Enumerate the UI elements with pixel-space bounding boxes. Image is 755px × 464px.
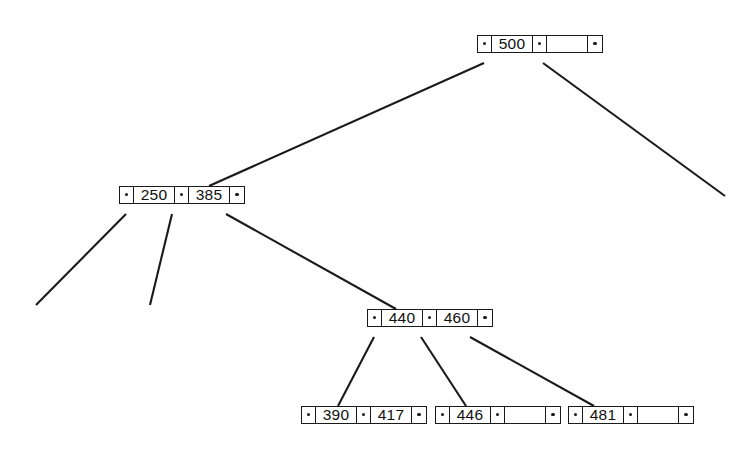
leaf-node-481-key-1: 481 xyxy=(583,407,624,423)
root-node-key-1: 500 xyxy=(492,36,533,52)
pointer-dot-icon xyxy=(125,193,128,196)
edge-layer xyxy=(0,0,755,464)
edge-250-385-middle-dangling xyxy=(150,214,172,305)
leaf-node-446-pointer-0 xyxy=(436,407,450,423)
internal-node-440-460-key-1: 440 xyxy=(382,310,423,326)
leaf-node-481-pointer-2 xyxy=(624,407,638,423)
leaf-node-446-pointer-2 xyxy=(491,407,505,423)
pointer-dot-icon xyxy=(496,413,499,416)
edge-440-460-to-390-417 xyxy=(338,337,374,406)
internal-node-250-385: 250385 xyxy=(119,186,245,204)
edge-250-385-left-dangling xyxy=(36,214,126,305)
leaf-node-390-417-pointer-2 xyxy=(357,407,371,423)
btree-diagram: 500250385440460390417446481 xyxy=(0,0,755,464)
internal-node-440-460-pointer-2 xyxy=(423,310,437,326)
edge-440-460-to-446 xyxy=(421,337,466,406)
edge-root-to-250-385 xyxy=(209,63,484,186)
pointer-dot-icon xyxy=(629,413,632,416)
internal-node-250-385-key-1: 250 xyxy=(134,187,175,203)
root-node-pointer-0 xyxy=(478,36,492,52)
internal-node-250-385-pointer-2 xyxy=(175,187,189,203)
pointer-dot-icon xyxy=(483,316,486,319)
root-node: 500 xyxy=(477,35,603,53)
pointer-dot-icon xyxy=(593,42,596,45)
leaf-node-446-key-1: 446 xyxy=(450,407,491,423)
pointer-dot-icon xyxy=(441,413,444,416)
leaf-node-446: 446 xyxy=(435,406,561,424)
leaf-node-446-key-3 xyxy=(505,407,546,423)
leaf-node-481-pointer-0 xyxy=(569,407,583,423)
root-node-pointer-2 xyxy=(533,36,547,52)
internal-node-250-385-key-3: 385 xyxy=(189,187,230,203)
leaf-node-446-pointer-4 xyxy=(546,407,560,423)
root-node-pointer-4 xyxy=(588,36,602,52)
internal-node-440-460-key-3: 460 xyxy=(437,310,478,326)
pointer-dot-icon xyxy=(373,316,376,319)
leaf-node-390-417: 390417 xyxy=(301,406,427,424)
root-node-key-3 xyxy=(547,36,588,52)
internal-node-250-385-pointer-4 xyxy=(230,187,244,203)
internal-node-440-460-pointer-4 xyxy=(478,310,492,326)
pointer-dot-icon xyxy=(180,193,183,196)
leaf-node-481-pointer-4 xyxy=(679,407,693,423)
leaf-node-390-417-key-1: 390 xyxy=(316,407,357,423)
leaf-node-481: 481 xyxy=(568,406,694,424)
internal-node-440-460: 440460 xyxy=(367,309,493,327)
pointer-dot-icon xyxy=(684,413,687,416)
pointer-dot-icon xyxy=(574,413,577,416)
pointer-dot-icon xyxy=(551,413,554,416)
internal-node-250-385-pointer-0 xyxy=(120,187,134,203)
pointer-dot-icon xyxy=(483,42,486,45)
pointer-dot-icon xyxy=(235,193,238,196)
pointer-dot-icon xyxy=(538,42,541,45)
pointer-dot-icon xyxy=(428,316,431,319)
edge-250-385-to-440-460 xyxy=(226,214,396,309)
edge-440-460-to-481 xyxy=(470,337,594,406)
leaf-node-390-417-key-3: 417 xyxy=(371,407,412,423)
leaf-node-390-417-pointer-0 xyxy=(302,407,316,423)
pointer-dot-icon xyxy=(417,413,420,416)
edge-root-right-dangling xyxy=(543,63,725,196)
internal-node-440-460-pointer-0 xyxy=(368,310,382,326)
leaf-node-390-417-pointer-4 xyxy=(412,407,426,423)
pointer-dot-icon xyxy=(362,413,365,416)
leaf-node-481-key-3 xyxy=(638,407,679,423)
pointer-dot-icon xyxy=(307,413,310,416)
